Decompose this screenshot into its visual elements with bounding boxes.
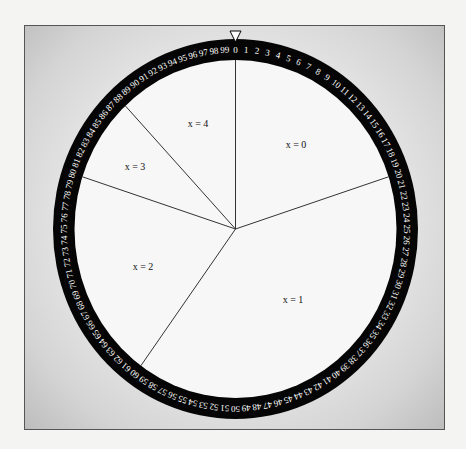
ring-number: 99	[220, 45, 230, 56]
ring-number: 0	[233, 45, 238, 55]
sector-label-x1: x = 1	[283, 294, 304, 305]
sector-label-x0: x = 0	[286, 139, 307, 150]
ring-number: 27	[400, 246, 411, 257]
ring-number: 48	[251, 402, 262, 413]
sector-label-x3: x = 3	[125, 161, 146, 172]
sector-label-x2: x = 2	[133, 261, 154, 272]
dial-diagram: 0123456789101112131415161718192021222324…	[0, 0, 466, 449]
ring-number: 24	[401, 213, 412, 223]
ring-number: 72	[61, 257, 73, 268]
ring-number: 25	[402, 225, 412, 235]
ring-number: 23	[400, 201, 411, 212]
ring-number: 1	[244, 45, 249, 55]
ring-number: 51	[220, 403, 230, 414]
ring-number: 98	[209, 45, 220, 56]
ring-number: 76	[59, 212, 70, 222]
ring-number: 22	[398, 190, 410, 201]
sector-label-x4: x = 4	[188, 118, 209, 129]
ring-number: 77	[60, 201, 71, 212]
ring-number: 52	[209, 402, 219, 413]
ring-number: 50	[231, 404, 241, 414]
ring-number: 49	[241, 403, 251, 414]
ring-number: 26	[401, 235, 412, 245]
ring-number: 75	[59, 224, 69, 234]
ring-number: 73	[60, 246, 71, 257]
ring-number: 74	[59, 235, 70, 245]
